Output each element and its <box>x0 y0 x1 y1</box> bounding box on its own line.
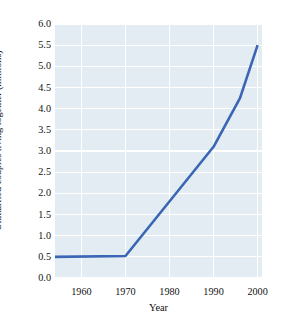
series-line-unmarried-couples <box>55 45 258 257</box>
x-axis-title: Year <box>55 302 262 313</box>
y-axis-tick-label: 2.0 <box>21 188 51 198</box>
chart-figure: Unmarried couples living together (milli… <box>0 0 281 321</box>
x-axis-tick-labels: 19601970198019902000 <box>55 287 262 301</box>
y-axis-tick-label: 5.5 <box>21 40 51 50</box>
x-axis-tick-label: 1990 <box>192 287 236 297</box>
y-axis-tick-label: 5.0 <box>21 61 51 71</box>
y-axis-title: Unmarried couples living together (milli… <box>0 0 18 281</box>
x-axis-tick-label: 1980 <box>148 287 192 297</box>
y-axis-tick-label: 3.0 <box>21 146 51 156</box>
y-axis-tick-label: 1.0 <box>21 231 51 241</box>
y-axis-tick-labels: 0.00.51.01.52.02.53.03.54.04.55.05.56.0 <box>19 24 51 278</box>
x-axis-tick-label: 1970 <box>103 287 147 297</box>
y-axis-tick-label: 0.5 <box>21 252 51 262</box>
y-axis-tick-label: 6.0 <box>21 19 51 29</box>
y-axis-tick-label: 3.5 <box>21 125 51 135</box>
y-axis-tick-label: 0.0 <box>21 273 51 283</box>
y-axis-tick-label: 4.5 <box>21 83 51 93</box>
y-axis-title-text: Unmarried couples living together (milli… <box>0 50 3 230</box>
x-axis-tick-label: 2000 <box>236 287 280 297</box>
x-axis-tick-label: 1960 <box>59 287 103 297</box>
data-series-layer <box>55 24 262 278</box>
plot-area <box>55 24 262 278</box>
y-axis-tick-label: 4.0 <box>21 104 51 114</box>
y-axis-tick-label: 2.5 <box>21 167 51 177</box>
y-axis-tick-label: 1.5 <box>21 210 51 220</box>
